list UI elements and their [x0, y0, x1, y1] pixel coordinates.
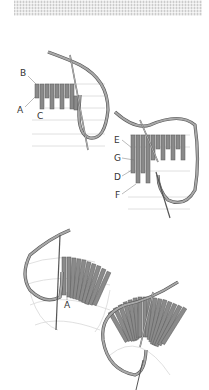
label-g: G: [114, 153, 121, 163]
label-a: A: [17, 105, 24, 115]
label-f: F: [115, 190, 120, 200]
label-c: C: [37, 111, 43, 121]
stitch-diagram: B A C: [0, 0, 209, 390]
figure-4: [103, 282, 187, 390]
label-e: E: [114, 135, 120, 145]
figure-1: B A C: [17, 52, 108, 150]
label-d: D: [114, 172, 121, 182]
label-b: B: [20, 68, 26, 78]
label-a2: A: [64, 300, 71, 310]
figure-2: E G D F: [114, 112, 198, 218]
figure-3: A: [25, 230, 111, 332]
